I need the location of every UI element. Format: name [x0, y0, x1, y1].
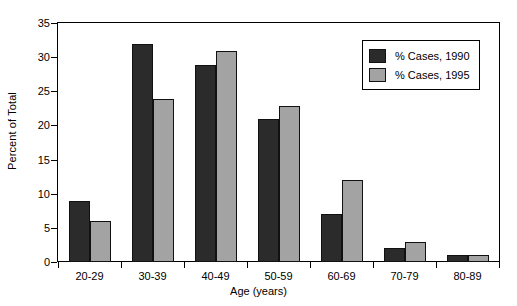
y-axis-tick-label: 20 — [24, 120, 50, 131]
bar — [447, 255, 468, 262]
legend-label: % Cases, 1990 — [395, 50, 470, 62]
x-axis-tick-label: 20-29 — [75, 270, 103, 282]
legend-item: % Cases, 1990 — [369, 46, 470, 65]
legend-label: % Cases, 1995 — [395, 69, 470, 81]
x-axis-tick-mark — [184, 262, 185, 268]
x-axis-tick-mark — [436, 262, 437, 268]
x-axis-tick-mark — [247, 262, 248, 268]
x-axis-tick-mark — [58, 262, 59, 268]
x-axis-tick-label: 40-49 — [201, 270, 229, 282]
x-axis-tick-mark — [499, 262, 500, 268]
bar — [90, 221, 111, 262]
bar — [195, 65, 216, 262]
y-axis-tick-label: 30 — [24, 52, 50, 63]
y-axis-tick-label: 10 — [24, 188, 50, 199]
bar — [405, 242, 426, 262]
legend-swatch — [369, 49, 386, 63]
y-axis-tick-label: 0 — [24, 257, 50, 268]
y-axis-title: Percent of Total — [3, 0, 21, 262]
legend-item: % Cases, 1995 — [369, 65, 470, 84]
x-axis-tick-label: 50-59 — [264, 270, 292, 282]
bar — [321, 214, 342, 262]
y-axis-tick-labels: 05101520253035 — [22, 0, 50, 306]
bar — [342, 180, 363, 262]
x-axis-tick-label: 60-69 — [327, 270, 355, 282]
bar — [468, 255, 489, 262]
legend: % Cases, 1990% Cases, 1995 — [362, 40, 480, 90]
bar — [279, 106, 300, 262]
bar-chart: Percent of Total 05101520253035 20-2930-… — [0, 0, 517, 306]
x-axis-tick-label: 30-39 — [138, 270, 166, 282]
y-axis-tick-label: 15 — [24, 154, 50, 165]
y-axis-tick-label: 25 — [24, 86, 50, 97]
bar — [258, 119, 279, 262]
x-axis-tick-mark — [373, 262, 374, 268]
bar — [153, 99, 174, 262]
y-axis-tick-label: 5 — [24, 222, 50, 233]
x-axis-tick-label: 80-89 — [453, 270, 481, 282]
bar — [132, 44, 153, 262]
x-axis-tick-label: 70-79 — [390, 270, 418, 282]
y-axis-tick-mark — [51, 262, 57, 263]
x-axis-tick-mark — [121, 262, 122, 268]
legend-swatch — [369, 68, 386, 82]
bar — [69, 201, 90, 262]
y-axis-tick-label: 35 — [24, 18, 50, 29]
x-axis-tick-mark — [310, 262, 311, 268]
x-axis-title: Age (years) — [0, 285, 517, 297]
bar — [216, 51, 237, 262]
bar — [384, 248, 405, 262]
